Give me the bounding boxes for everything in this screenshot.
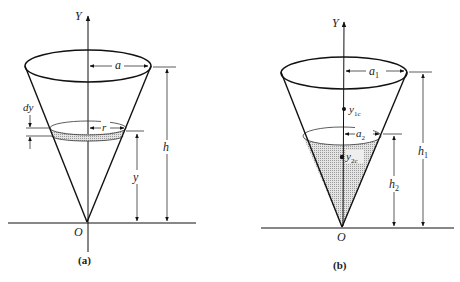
caption-a: (a) [78, 254, 91, 267]
label-h: h [163, 140, 169, 154]
liquid-shading [303, 136, 381, 227]
origin-label: O [337, 230, 346, 244]
cone-left-side [25, 66, 87, 222]
label-y1c: y1c [348, 103, 361, 118]
label-a: a [115, 58, 121, 72]
centroid-liquid-dot [340, 155, 344, 159]
label-r: r [102, 121, 107, 133]
cone-diagram: a r dy y h Y O (a) [0, 0, 460, 282]
figure-a: a r dy y h Y O (a) [8, 9, 196, 267]
caption-b: (b) [333, 259, 347, 272]
centroid-full-dot [342, 107, 346, 111]
label-y: y [132, 170, 139, 184]
axis-label-y: Y [75, 9, 83, 23]
figure-b: a1 a2 y1c y2c h2 h1 Y O (b) [261, 16, 454, 272]
origin-label: O [74, 225, 83, 239]
axis-label-y: Y [332, 16, 340, 30]
cone-right-side [87, 66, 151, 222]
label-dy: dy [23, 101, 34, 113]
